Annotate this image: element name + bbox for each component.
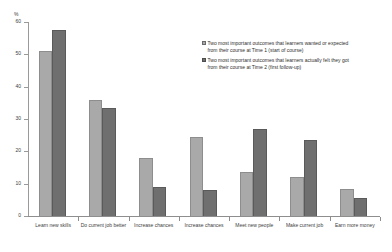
- y-axis-tick-label: 20: [15, 147, 21, 153]
- bar: [153, 187, 167, 216]
- legend-item[interactable]: Two most important outcomes that learner…: [202, 40, 350, 54]
- y-axis-tick: 30: [24, 119, 28, 120]
- y-axis-tick-label: 0: [18, 212, 21, 218]
- bar-group: [39, 22, 66, 216]
- bar: [139, 158, 153, 216]
- legend-swatch-dark: [202, 58, 206, 62]
- y-axis-tick-label: 60: [15, 18, 21, 24]
- y-axis-tick-label: 30: [15, 115, 21, 121]
- bar: [203, 190, 217, 216]
- bar: [304, 140, 318, 216]
- y-axis-tick: 20: [24, 151, 28, 152]
- legend-swatch-light: [202, 41, 206, 45]
- y-axis-tick: 40: [24, 87, 28, 88]
- y-axis-tick-label: 10: [15, 180, 21, 186]
- legend-item-label: Two most important outcomes that learner…: [208, 40, 351, 54]
- bar: [190, 137, 204, 216]
- x-axis-tick: [330, 217, 331, 221]
- bar: [253, 129, 267, 216]
- bar-group: [139, 22, 166, 216]
- y-axis-tick: 0: [24, 216, 28, 217]
- x-axis-line: [28, 216, 380, 217]
- x-axis-tick: [279, 217, 280, 221]
- bar-chart: % 0102030405060 Learn new skillsDo curre…: [0, 0, 392, 252]
- x-axis-tick: [380, 217, 381, 221]
- bar-group: [89, 22, 116, 216]
- bar: [354, 198, 368, 216]
- y-axis-tick: 10: [24, 184, 28, 185]
- bar: [102, 108, 116, 216]
- x-axis-label: Learn new skills: [28, 222, 78, 228]
- legend-item[interactable]: Two most important outcomes that learner…: [202, 57, 350, 71]
- chart-legend: Two most important outcomes that learner…: [202, 40, 350, 74]
- legend-item-label: Two most important outcomes that learner…: [208, 57, 351, 71]
- bar: [340, 189, 354, 216]
- x-axis-label: Earn more money: [330, 222, 380, 228]
- bar: [290, 177, 304, 216]
- x-axis-tick: [129, 217, 130, 221]
- x-axis-tick: [78, 217, 79, 221]
- x-axis-label: Increase chances: [179, 222, 229, 228]
- y-axis-unit-label: %: [14, 11, 18, 17]
- x-axis-tick: [179, 217, 180, 221]
- y-axis-tick: 50: [24, 54, 28, 55]
- y-axis-line: [28, 22, 29, 217]
- bar: [39, 51, 53, 216]
- x-axis-label: Meet new people: [229, 222, 279, 228]
- y-axis-tick-label: 40: [15, 83, 21, 89]
- bar: [89, 100, 103, 216]
- x-axis-tick: [229, 217, 230, 221]
- x-axis-label: Do current job better: [78, 222, 128, 228]
- x-axis-label: Increase chances: [129, 222, 179, 228]
- bar: [240, 172, 254, 216]
- y-axis-tick-label: 50: [15, 50, 21, 56]
- y-axis-tick: 60: [24, 22, 28, 23]
- x-axis-label: Make current job: [279, 222, 329, 228]
- bar: [52, 30, 66, 216]
